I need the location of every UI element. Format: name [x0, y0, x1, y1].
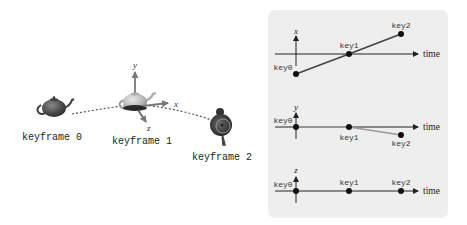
time-label: time — [423, 122, 440, 132]
time-label: time — [423, 186, 440, 196]
teapot-keyframe-0 — [37, 96, 74, 117]
axis-label-z: z — [293, 165, 298, 175]
keyframe-diagram: y x z keyframe 0 keyframe 1 keyframe 2 x… — [0, 0, 467, 225]
key1-point — [346, 51, 352, 57]
key2-label: key2 — [391, 139, 410, 148]
key2-label: key2 — [391, 178, 410, 187]
key0-label: key0 — [273, 116, 292, 125]
key2-label: key2 — [391, 21, 410, 30]
axis-label-x: x — [293, 26, 298, 36]
teapot-keyframe-1: y x z — [120, 60, 178, 133]
key1-point — [346, 124, 352, 130]
key1-label: key1 — [339, 178, 358, 187]
key0-point — [293, 124, 299, 130]
key0-point — [293, 71, 299, 77]
z-axis-label: z — [146, 123, 151, 133]
key2-point — [398, 31, 404, 37]
key1-label: key1 — [339, 41, 358, 50]
key0-point — [293, 188, 299, 194]
key1-label: key1 — [339, 133, 358, 142]
axis-label-y: y — [293, 102, 298, 112]
y-axis-label: y — [132, 60, 137, 70]
key0-label: key0 — [273, 63, 292, 72]
teapot-keyframe-2 — [210, 108, 232, 145]
time-label: time — [423, 49, 440, 59]
key1-point — [346, 188, 352, 194]
keyframe-2-label: keyframe 2 — [192, 152, 252, 163]
z-axis-arrow — [138, 110, 146, 122]
x-axis-label: x — [173, 99, 178, 109]
keyframe-1-label: keyframe 1 — [112, 136, 172, 147]
keyframe-0-label: keyframe 0 — [22, 132, 82, 143]
key2-point — [398, 132, 404, 138]
key2-point — [398, 188, 404, 194]
key0-label: key0 — [273, 180, 292, 189]
